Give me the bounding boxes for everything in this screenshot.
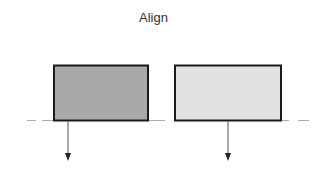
arrow-down-icon: [225, 121, 231, 161]
align-diagram: [0, 0, 323, 177]
left-box: [54, 66, 148, 121]
arrow-down-icon: [65, 121, 71, 161]
right-box: [175, 66, 281, 121]
